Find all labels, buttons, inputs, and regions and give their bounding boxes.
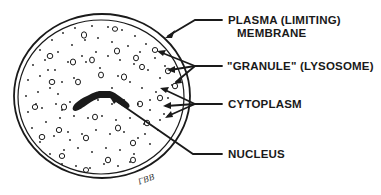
nucleus xyxy=(73,91,130,111)
cell-diagram xyxy=(0,0,381,195)
label-cytoplasm: CYTOPLASM xyxy=(228,98,302,111)
granules xyxy=(32,27,177,173)
label-granule-lysosome: "GRANULE" (LYSOSOME) xyxy=(227,60,374,73)
label-plasma-membrane-line2: MEMBRANE xyxy=(237,27,306,40)
label-nucleus: NUCLEUS xyxy=(228,148,285,161)
label-plasma-membrane-line1: PLASMA (LIMITING) xyxy=(228,14,341,27)
